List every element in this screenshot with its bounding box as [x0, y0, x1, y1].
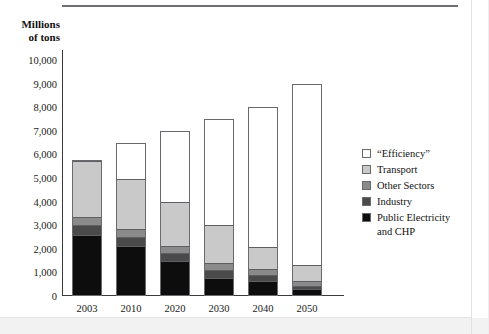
- legend-item-0: “Efficiency”: [362, 147, 450, 161]
- x-axis-tick-label: 2030: [195, 303, 243, 314]
- bar-segment: [161, 132, 189, 202]
- y-axis-tick-label: 7,000: [33, 125, 57, 136]
- legend-item-2: Other Sectors: [362, 179, 450, 193]
- page-bottom-band: [0, 318, 489, 334]
- bar-segment: [161, 253, 189, 261]
- y-axis-tick-label: 2,000: [33, 243, 57, 254]
- legend-label: Other Sectors: [377, 179, 434, 193]
- bar-segment: [73, 235, 101, 295]
- bar-segment: [117, 179, 145, 229]
- legend-item-4: Public Electricity and CHP: [362, 211, 450, 238]
- bar-2030: [204, 119, 234, 296]
- legend-label: Industry: [377, 195, 412, 209]
- y-axis-line: [62, 50, 63, 296]
- bar-segment: [117, 237, 145, 246]
- legend-swatch-icon: [362, 149, 371, 158]
- legend-label: Transport: [377, 163, 417, 177]
- legend-item-1: Transport: [362, 163, 450, 177]
- bar-2003: [72, 160, 102, 296]
- y-axis-title: Millions of tons: [6, 18, 60, 43]
- y-axis-tick-label: 5,000: [33, 173, 57, 184]
- bar-segment: [73, 161, 101, 217]
- bar-segment: [293, 85, 321, 265]
- figure-page: Millions of tons 01,0002,0003,0004,0005,…: [0, 0, 489, 334]
- legend-swatch-icon: [362, 213, 371, 222]
- bar-segment: [73, 225, 101, 234]
- bar-segment: [205, 120, 233, 225]
- y-axis-tick-label: 10,000: [28, 55, 57, 66]
- bar-segment: [117, 144, 145, 179]
- plot-area: 01,0002,0003,0004,0005,0006,0007,0008,00…: [62, 60, 344, 296]
- bar-segment: [205, 225, 233, 264]
- y-axis-tick-label: 9,000: [33, 78, 57, 89]
- x-axis-tick-label: 2040: [239, 303, 287, 314]
- legend-label: “Efficiency”: [377, 147, 430, 161]
- bar-segment: [161, 202, 189, 246]
- y-axis-tick-label: 1,000: [33, 267, 57, 278]
- x-axis-tick-label: 2020: [151, 303, 199, 314]
- legend-swatch-icon: [362, 165, 371, 174]
- bar-2050: [292, 84, 322, 296]
- y-axis-tick-label: 4,000: [33, 196, 57, 207]
- bar-segment: [117, 229, 145, 237]
- y-axis-tick-label: 0: [52, 291, 57, 302]
- bar-2010: [116, 143, 146, 296]
- legend-item-3: Industry: [362, 195, 450, 209]
- figure-title-cropped: [62, 0, 458, 3]
- y-axis-tick-label: 6,000: [33, 149, 57, 160]
- bar-segment: [249, 281, 277, 295]
- page-right-edge: [471, 0, 472, 334]
- legend-label: Public Electricity and CHP: [377, 211, 450, 238]
- bar-segment: [73, 217, 101, 225]
- bar-segment: [249, 108, 277, 247]
- bar-segment: [161, 261, 189, 295]
- legend-swatch-icon: [362, 181, 371, 190]
- title-rule: [62, 5, 458, 7]
- x-axis-tick-label: 2010: [107, 303, 155, 314]
- legend-swatch-icon: [362, 197, 371, 206]
- bar-segment: [205, 270, 233, 277]
- chart-legend: “Efficiency”TransportOther SectorsIndust…: [362, 147, 450, 241]
- bar-segment: [205, 278, 233, 296]
- y-axis-tick-label: 8,000: [33, 102, 57, 113]
- bar-segment: [249, 247, 277, 269]
- bar-2020: [160, 131, 190, 296]
- y-axis-tick-label: 3,000: [33, 220, 57, 231]
- bar-segment: [117, 246, 145, 295]
- bar-segment: [205, 263, 233, 270]
- bar-segment: [293, 265, 321, 281]
- x-axis-tick-label: 2003: [63, 303, 111, 314]
- bar-2040: [248, 107, 278, 296]
- bar-segment: [161, 246, 189, 253]
- bar-segment: [293, 289, 321, 295]
- x-axis-tick-label: 2050: [283, 303, 331, 314]
